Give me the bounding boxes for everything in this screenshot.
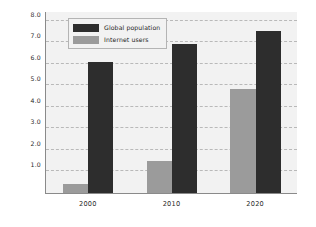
y-tick-label: 8.0 [31,10,41,17]
legend-label: Global population [104,24,160,31]
legend-item[interactable]: Internet users [73,35,160,44]
y-tick-label: 2.0 [31,139,41,146]
bar-internet-users [147,161,172,193]
bar-global-population [88,62,113,193]
x-tick-label: 2010 [163,200,181,208]
legend-item[interactable]: Global population [73,23,160,32]
y-tick-label: 3.0 [31,118,41,125]
legend-swatch-icon [73,36,99,44]
x-tick-label: 2000 [79,200,97,208]
plot-area: 1.02.03.04.05.06.07.08.0 200020102020 Gl… [45,12,297,194]
y-tick-label: 1.0 [31,161,41,168]
y-tick-label: 7.0 [31,32,41,39]
bar-global-population [172,44,197,193]
legend: Global populationInternet users [68,18,167,49]
legend-label: Internet users [104,36,149,43]
y-tick-label: 5.0 [31,75,41,82]
bar-global-population [256,31,281,193]
bar-group [213,12,297,193]
y-tick-label: 6.0 [31,53,41,60]
bar-internet-users [230,89,255,194]
bar-internet-users [63,184,88,193]
y-tick-label: 4.0 [31,96,41,103]
figure: Number of people (billions) 1.02.03.04.0… [0,0,316,227]
legend-swatch-icon [73,24,99,32]
x-tick-label: 2020 [246,200,264,208]
